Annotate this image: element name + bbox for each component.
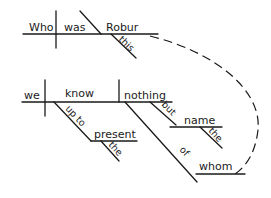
sentence-diagram: Who was Robur this we know nothing up to…	[0, 0, 271, 198]
word-this: this	[117, 34, 137, 54]
word-of: of	[178, 144, 193, 159]
word-the-1: the	[107, 139, 126, 158]
word-we: we	[24, 89, 40, 102]
word-know: know	[65, 87, 94, 100]
word-whom: whom	[199, 160, 232, 173]
word-was: was	[64, 21, 86, 34]
word-robur: Robur	[106, 21, 139, 34]
word-the-2: the	[207, 125, 226, 144]
word-who: Who	[29, 21, 54, 34]
word-name: name	[184, 114, 215, 127]
word-nothing: nothing	[124, 89, 166, 102]
